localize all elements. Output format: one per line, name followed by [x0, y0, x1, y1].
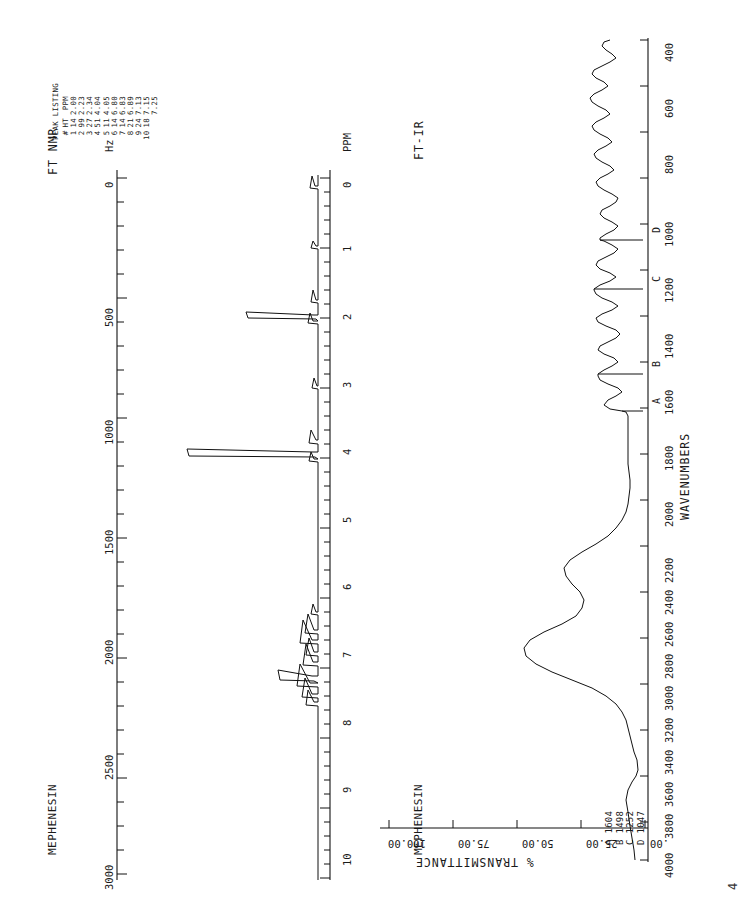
nmr-panel: FT NMR MEPHENESIN Hz PPM 0 500 1000 1500… [0, 0, 360, 897]
ir-trace [524, 40, 638, 860]
ir-wavenumber-ticks [640, 40, 648, 860]
nmr-ppm-ticks [320, 178, 330, 878]
page-mark: 4 [726, 883, 740, 890]
ir-panel: FT-IR MEPHENESIN WAVENUMBERS % TRANSMITT… [360, 0, 746, 897]
ir-peak-leaders [594, 240, 643, 411]
nmr-hz-ticks [117, 178, 127, 874]
ir-transmittance-ticks [389, 820, 645, 828]
nmr-plot [0, 0, 360, 897]
ir-plot [360, 0, 746, 897]
nmr-trace [187, 175, 318, 880]
